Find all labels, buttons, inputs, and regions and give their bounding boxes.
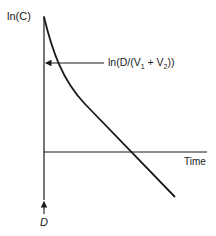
time-axis-label: Time <box>184 156 206 167</box>
pharmacokinetic-diagram: ln(C) ln(D/(V1 + V2)) Time D <box>0 0 216 236</box>
intercept-label: ln(D/(V1 + V2)) <box>108 56 174 70</box>
concentration-curve <box>44 17 175 197</box>
dose-label: D <box>40 216 48 228</box>
y-axis-label: ln(C) <box>7 10 31 22</box>
